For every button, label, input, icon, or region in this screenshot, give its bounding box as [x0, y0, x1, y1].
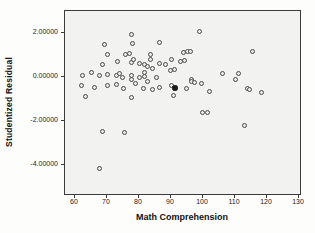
y-tick-mark	[61, 32, 64, 33]
data-point	[97, 73, 102, 78]
y-axis-title: Studentized Residual	[4, 57, 14, 147]
data-point	[129, 95, 134, 100]
data-point-filled	[172, 85, 178, 91]
data-point	[129, 32, 134, 37]
plot-area	[64, 10, 301, 195]
data-point	[148, 57, 153, 62]
x-tick-label: 130	[292, 198, 304, 205]
data-point	[172, 67, 177, 72]
data-point	[259, 90, 264, 95]
data-point	[242, 123, 247, 128]
data-point	[133, 81, 138, 86]
x-tick-label: 60	[70, 198, 78, 205]
x-tick-label: 120	[260, 198, 272, 205]
data-point	[145, 79, 150, 84]
x-axis-ticks: 60708090100110120130	[64, 195, 301, 211]
data-point	[130, 41, 135, 46]
data-point	[92, 85, 97, 90]
data-point	[197, 29, 202, 34]
data-point	[102, 42, 107, 47]
data-point	[105, 52, 110, 57]
data-point	[199, 81, 204, 86]
data-point	[83, 94, 88, 99]
data-point	[220, 71, 225, 76]
data-point	[207, 89, 212, 94]
data-point	[105, 72, 110, 77]
data-point	[100, 62, 105, 67]
y-tick-label: -4.00000	[0, 160, 58, 167]
data-point	[100, 129, 105, 134]
data-point	[142, 74, 147, 79]
data-point	[79, 83, 84, 88]
y-tick-mark	[61, 76, 64, 77]
data-point	[247, 87, 252, 92]
x-tick-label: 70	[102, 198, 110, 205]
data-point	[122, 130, 127, 135]
data-point	[236, 71, 241, 76]
y-tick-mark	[61, 164, 64, 165]
data-point	[105, 83, 110, 88]
data-point	[120, 75, 125, 80]
data-point	[188, 49, 193, 54]
data-point	[184, 86, 189, 91]
data-point	[169, 57, 174, 62]
data-point	[250, 49, 255, 54]
data-point	[80, 73, 85, 78]
data-point	[157, 85, 162, 90]
data-point	[157, 40, 162, 45]
data-point	[192, 80, 197, 85]
data-point	[150, 87, 155, 92]
data-point	[171, 93, 176, 98]
data-point	[97, 166, 102, 171]
data-point	[154, 75, 159, 80]
data-point	[148, 52, 153, 57]
data-point	[121, 86, 126, 91]
x-tick-label: 90	[166, 198, 174, 205]
x-axis-title: Math Comprehension	[136, 212, 228, 222]
data-point	[205, 110, 210, 115]
data-point	[141, 86, 146, 91]
data-point	[150, 66, 155, 71]
data-point	[178, 59, 183, 64]
x-tick-label: 110	[228, 198, 239, 205]
data-point	[114, 82, 119, 87]
data-point	[157, 61, 162, 66]
data-point	[127, 51, 132, 56]
data-point	[163, 62, 168, 67]
data-point	[233, 77, 238, 82]
data-point	[200, 110, 205, 115]
x-tick-label: 80	[134, 198, 142, 205]
data-point	[115, 59, 120, 64]
data-point	[89, 70, 94, 75]
y-tick-label: 2.00000	[0, 28, 58, 35]
x-tick-label: 100	[196, 198, 208, 205]
y-tick-mark	[61, 120, 64, 121]
data-point	[131, 57, 136, 62]
